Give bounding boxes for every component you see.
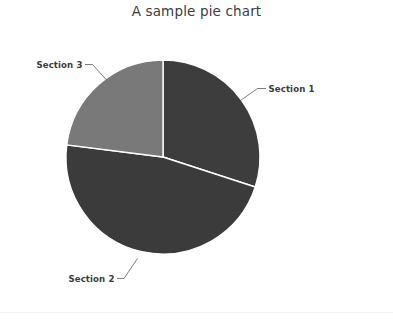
leader-line-section-2 bbox=[117, 259, 138, 279]
pie-label-section-3: Section 3 bbox=[36, 60, 82, 70]
pie-label-section-2: Section 2 bbox=[68, 274, 114, 284]
pie-slice-section-3[interactable] bbox=[67, 60, 163, 157]
pie-chart-figure: A sample pie chart Section 1 Section 3 S… bbox=[0, 0, 393, 327]
pie-label-section-1: Section 1 bbox=[269, 84, 315, 94]
leader-line-section-3 bbox=[85, 65, 107, 81]
leader-line-section-1 bbox=[241, 89, 267, 101]
footer-divider bbox=[0, 312, 393, 313]
pie-chart-svg: Section 1 Section 3 Section 2 bbox=[0, 0, 393, 327]
